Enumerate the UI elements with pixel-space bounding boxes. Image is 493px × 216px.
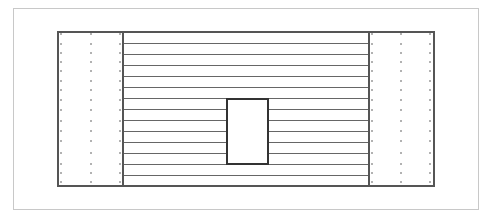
- panel-dot: [60, 99, 62, 101]
- panel-dot: [119, 181, 121, 183]
- panel-dot: [119, 99, 121, 101]
- panel-dot: [119, 89, 121, 91]
- panel-dot: [90, 109, 92, 111]
- panel-dot: [400, 172, 402, 174]
- panel-dot: [371, 33, 373, 35]
- panel-dot: [429, 70, 431, 72]
- panel-dot: [400, 120, 402, 122]
- panel-dot: [60, 89, 62, 91]
- panel-dot: [119, 140, 121, 142]
- panel-dot: [90, 43, 92, 45]
- panel-dot: [371, 52, 373, 54]
- panel-dot: [119, 33, 121, 35]
- diagram-canvas: [0, 0, 493, 216]
- panel-dot: [371, 130, 373, 132]
- panel-dot: [400, 109, 402, 111]
- panel-dot: [400, 152, 402, 154]
- panel-dot: [429, 140, 431, 142]
- panel-dot: [371, 140, 373, 142]
- panel-dot: [429, 99, 431, 101]
- panel-dot: [429, 80, 431, 82]
- panel-dot: [119, 130, 121, 132]
- panel-dot: [60, 109, 62, 111]
- panel-dot: [371, 163, 373, 165]
- panel-dot: [119, 80, 121, 82]
- panel-dot: [90, 152, 92, 154]
- panel-dot: [119, 43, 121, 45]
- panel-dot: [429, 61, 431, 63]
- panel-dot: [429, 89, 431, 91]
- panel-dot: [90, 120, 92, 122]
- panel-dot: [429, 152, 431, 154]
- panel-dot: [371, 120, 373, 122]
- panel-dot: [429, 172, 431, 174]
- panel-dot: [119, 70, 121, 72]
- panel-dot: [60, 163, 62, 165]
- panel-dot: [90, 163, 92, 165]
- panel-dot: [60, 43, 62, 45]
- panel-dot: [400, 80, 402, 82]
- panel-dot: [371, 80, 373, 82]
- panel-dot: [400, 61, 402, 63]
- panel-dot: [119, 120, 121, 122]
- panel-dot: [400, 43, 402, 45]
- panel-dot: [119, 109, 121, 111]
- panel-dot: [119, 152, 121, 154]
- panel-dot: [60, 80, 62, 82]
- panel-dot: [90, 70, 92, 72]
- panel-dot: [429, 33, 431, 35]
- panel-dot: [429, 52, 431, 54]
- panel-dot: [60, 70, 62, 72]
- panel-dot: [371, 43, 373, 45]
- panel-dot: [429, 109, 431, 111]
- panel-dot: [119, 172, 121, 174]
- panel-dot: [90, 33, 92, 35]
- panel-dot: [90, 172, 92, 174]
- panel-dot: [90, 52, 92, 54]
- inner-rectangle: [227, 99, 268, 164]
- striped-panel-diagram: [0, 0, 493, 216]
- panel-dot: [60, 120, 62, 122]
- panel-dot: [90, 89, 92, 91]
- panel-dot: [119, 52, 121, 54]
- panel-dot: [429, 130, 431, 132]
- panel-dot: [400, 130, 402, 132]
- panel-dot: [90, 140, 92, 142]
- panel-dot: [60, 152, 62, 154]
- panel-dot: [90, 99, 92, 101]
- panel-dot: [400, 70, 402, 72]
- panel-dot: [400, 140, 402, 142]
- panel-dot: [371, 152, 373, 154]
- panel-dot: [90, 61, 92, 63]
- panel-dot: [429, 43, 431, 45]
- panel-dot: [371, 89, 373, 91]
- panel-dot: [90, 130, 92, 132]
- panel-dot: [429, 181, 431, 183]
- panel-dot: [119, 163, 121, 165]
- panel-dot: [429, 163, 431, 165]
- panel-dot: [60, 130, 62, 132]
- panel-dot: [400, 99, 402, 101]
- panel-dot: [371, 99, 373, 101]
- panel-dot: [60, 33, 62, 35]
- panel-dot: [429, 120, 431, 122]
- panel-dot: [371, 172, 373, 174]
- panel-dot: [400, 33, 402, 35]
- panel-dot: [400, 163, 402, 165]
- panel-dot: [400, 89, 402, 91]
- panel-dot: [400, 181, 402, 183]
- panel-dot: [119, 61, 121, 63]
- panel-dot: [371, 70, 373, 72]
- panel-dot: [90, 80, 92, 82]
- panel-dot: [90, 181, 92, 183]
- panel-dot: [60, 52, 62, 54]
- panel-dot: [60, 181, 62, 183]
- panel-dot: [60, 140, 62, 142]
- panel-dot: [60, 61, 62, 63]
- panel-dot: [60, 172, 62, 174]
- panel-dot: [400, 52, 402, 54]
- panel-dot: [371, 181, 373, 183]
- panel-dot: [371, 109, 373, 111]
- panel-dot: [371, 61, 373, 63]
